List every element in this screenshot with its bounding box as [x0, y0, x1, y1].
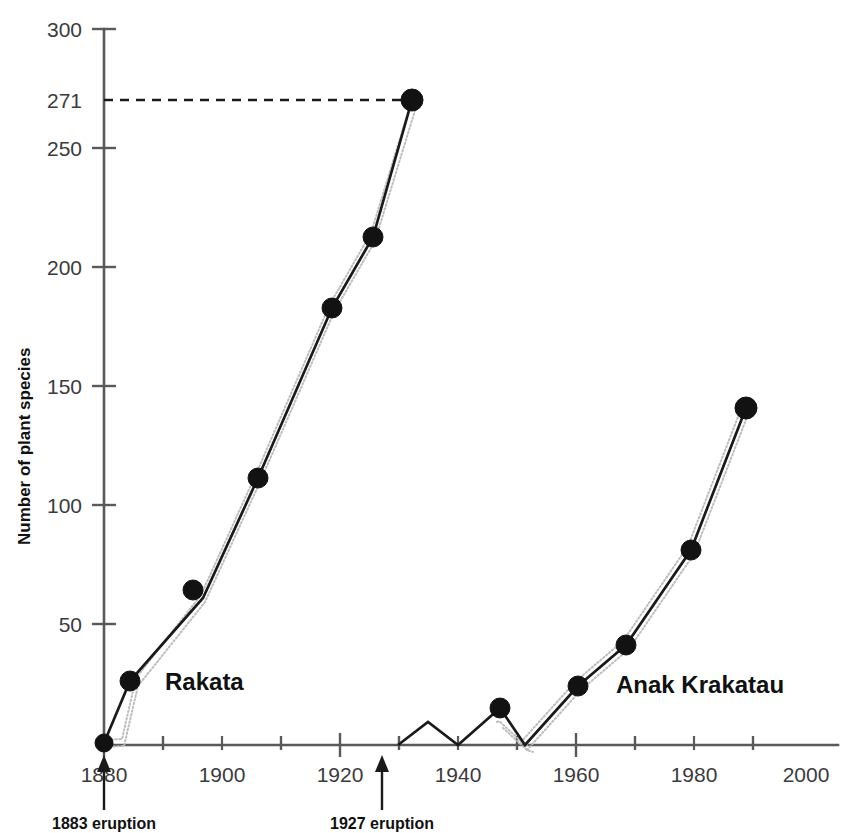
annotation-1883-eruption: 1883 eruption: [52, 755, 156, 832]
data-point-anak-1962: [568, 676, 588, 696]
y-tick-label-100: 100: [47, 494, 82, 517]
x-tick-label-1940: 1940: [435, 763, 482, 786]
arrow-up-icon: [375, 755, 389, 772]
y-tick-label-271: 271: [47, 89, 82, 112]
data-point-anak-1950: [490, 698, 510, 718]
x-tick-label-1960: 1960: [553, 763, 600, 786]
x-tick-label-1900: 1900: [199, 763, 246, 786]
line-chart-plot: 300 271 250 200 150 100 50 Number of pla…: [0, 0, 845, 833]
data-point-rakata-1886: [120, 671, 140, 691]
data-point-rakata-1934: [401, 89, 423, 111]
y-tick-label-200: 200: [47, 256, 82, 279]
series-label-rakata: Rakata: [165, 668, 244, 695]
data-point-anak-1990: [735, 397, 757, 419]
data-point-rakata-1897: [183, 580, 203, 600]
series-anak-krakatau: [398, 397, 757, 752]
annotation-label-1883: 1883 eruption: [52, 815, 156, 832]
series-rakata: [95, 89, 423, 752]
y-tick-label-300: 300: [47, 18, 82, 41]
y-tick-label-50: 50: [59, 613, 82, 636]
x-tick-label-2000: 2000: [783, 763, 830, 786]
data-point-rakata-1928: [363, 227, 383, 247]
y-tick-label-150: 150: [47, 375, 82, 398]
annotation-label-1927: 1927 eruption: [330, 815, 434, 832]
data-point-rakata-1921: [322, 298, 342, 318]
x-tick-label-1920: 1920: [317, 763, 364, 786]
y-axis-title: Number of plant species: [15, 348, 34, 545]
data-point-anak-1970: [616, 635, 636, 655]
data-point-rakata-1908: [248, 468, 268, 488]
y-tick-label-250: 250: [47, 137, 82, 160]
chart-figure: 300 271 250 200 150 100 50 Number of pla…: [0, 0, 845, 833]
data-point-rakata-1883: [95, 734, 113, 752]
data-point-anak-1981: [681, 540, 701, 560]
series-label-anak-krakatau: Anak Krakatau: [616, 671, 784, 698]
x-tick-label-1980: 1980: [671, 763, 718, 786]
